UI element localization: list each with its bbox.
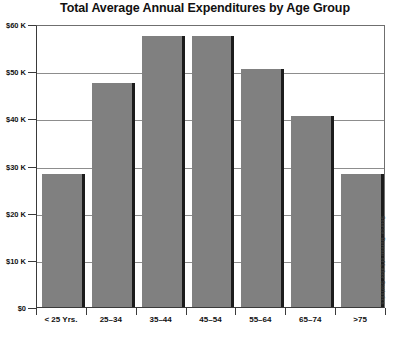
bar[interactable] <box>291 116 331 307</box>
x-axis-tick <box>36 308 37 315</box>
plot-area <box>36 25 385 308</box>
source-annotation: Source: Bureau of Labor Statistics <box>380 216 386 305</box>
y-axis-tick <box>28 308 36 309</box>
y-axis-tick <box>28 72 36 73</box>
y-axis-label: $10 K <box>0 257 26 266</box>
y-axis-tick <box>28 25 36 26</box>
y-axis-tick <box>28 214 36 215</box>
x-axis-tick <box>136 308 137 315</box>
x-axis-tick <box>285 308 286 315</box>
x-axis-tick <box>235 308 236 315</box>
expenditures-bar-chart: Total Average Annual Expenditures by Age… <box>0 0 410 348</box>
y-axis-tick <box>28 167 36 168</box>
y-axis-tick <box>28 261 36 262</box>
y-axis-label: $60 K <box>0 21 26 30</box>
y-axis-tick <box>28 119 36 120</box>
y-axis-label: $0 <box>0 304 26 313</box>
bar[interactable] <box>341 174 381 307</box>
y-axis-label: $40 K <box>0 115 26 124</box>
bar[interactable] <box>241 69 281 307</box>
y-axis-label: $20 K <box>0 210 26 219</box>
chart-title: Total Average Annual Expenditures by Age… <box>0 1 410 15</box>
x-axis-tick <box>186 308 187 315</box>
x-axis-tick <box>86 308 87 315</box>
y-axis-label: $50 K <box>0 68 26 77</box>
x-axis-label: >75 <box>330 315 390 324</box>
y-axis-label: $30 K <box>0 163 26 172</box>
x-axis-tick <box>335 308 336 315</box>
bar[interactable] <box>192 36 232 307</box>
bar[interactable] <box>92 83 132 307</box>
bar[interactable] <box>42 174 82 307</box>
bar[interactable] <box>142 36 182 307</box>
x-axis-tick <box>385 308 386 315</box>
